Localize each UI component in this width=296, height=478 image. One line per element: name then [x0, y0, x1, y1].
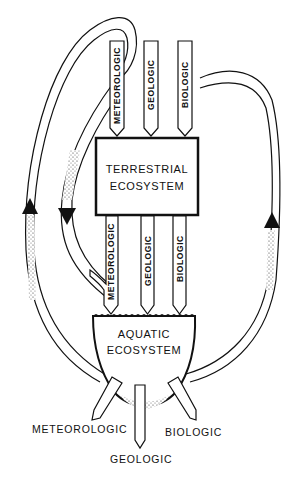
output-arrow-biologic: [168, 377, 196, 420]
transfer-label-geologic: GEOLOGIC: [143, 235, 153, 286]
transfer-label-meteorologic: METEOROLOGIC: [106, 223, 116, 300]
input-label-geologic: GEOLOGIC: [146, 59, 156, 110]
left-loop-stipple: [27, 215, 36, 300]
terrestrial-title-line1: TERRESTRIAL: [106, 163, 188, 175]
terrestrial-title-line2: ECOSYSTEM: [110, 180, 184, 192]
up-arrow-icon: [264, 212, 280, 228]
output-label-biologic: BIOLOGIC: [165, 426, 222, 438]
aquatic-title-line1: AQUATIC: [118, 328, 170, 340]
aquatic-title-line2: ECOSYSTEM: [107, 344, 181, 356]
up-arrow-icon: [22, 198, 38, 214]
transfer-arrow-meteorologic: METEOROLOGIC: [90, 216, 118, 314]
transfer-label-biologic: BIOLOGIC: [175, 235, 185, 282]
transfer-arrow-biologic: BIOLOGIC: [173, 216, 186, 314]
input-arrow-meteorologic: METEOROLOGIC: [110, 41, 124, 136]
terrestrial-ecosystem-node: TERRESTRIAL ECOSYSTEM: [96, 138, 198, 215]
output-label-geologic: GEOLOGIC: [110, 453, 172, 465]
output-arrow-geologic: [135, 385, 145, 448]
input-label-meteorologic: METEOROLOGIC: [112, 47, 122, 124]
transfer-arrow-geologic: GEOLOGIC: [141, 216, 154, 314]
output-label-meteorologic: METEOROLOGIC: [32, 423, 127, 435]
right-loop-stipple: [266, 230, 275, 290]
ecosystem-diagram: METEOROLOGIC GEOLOGIC BIOLOGIC TERRESTRI…: [0, 0, 296, 478]
input-label-biologic: BIOLOGIC: [180, 61, 190, 108]
input-arrow-biologic: BIOLOGIC: [178, 41, 192, 136]
input-arrow-geologic: GEOLOGIC: [144, 41, 158, 136]
output-arrow-meteorologic: [92, 377, 122, 420]
